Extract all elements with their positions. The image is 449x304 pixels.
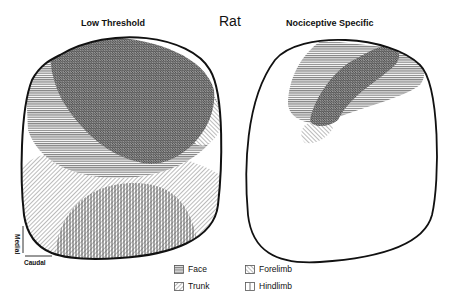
forelimb-pattern-icon	[245, 265, 255, 274]
legend-item-face: Face	[174, 264, 207, 274]
trunk-pattern-icon	[174, 282, 184, 291]
hindlimb-pattern-icon	[245, 282, 255, 291]
medial-axis-label: Medial	[14, 234, 21, 254]
face-pattern-icon	[174, 265, 184, 274]
legend-item-forelimb: Forelimb	[245, 264, 292, 274]
legend-item-trunk: Trunk	[174, 281, 209, 291]
low-threshold-map	[18, 37, 230, 262]
legend-item-hindlimb: Hindlimb	[245, 281, 292, 291]
somatotopic-map-diagram	[0, 0, 449, 304]
legend-label-face: Face	[188, 264, 207, 274]
legend-label-hindlimb: Hindlimb	[259, 281, 292, 291]
legend-label-trunk: Trunk	[188, 281, 209, 291]
legend-label-forelimb: Forelimb	[259, 264, 292, 274]
caudal-axis-label: Caudal	[24, 259, 46, 266]
nociceptive-specific-map	[288, 40, 424, 143]
